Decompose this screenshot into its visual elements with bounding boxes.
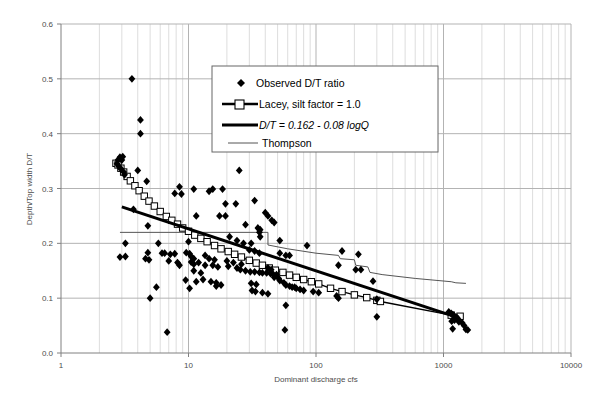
lacey-square-marker <box>231 251 237 257</box>
lacey-square-marker <box>280 269 286 275</box>
lacey-square-marker <box>300 276 306 282</box>
legend-label-observed: Observed D/T ratio <box>256 77 345 89</box>
lacey-square-marker <box>198 235 204 241</box>
lacey-square-marker <box>218 246 224 252</box>
y-tick-label: 0.1 <box>42 294 54 303</box>
lacey-square-marker <box>246 257 252 263</box>
open-square-marker-icon <box>235 100 244 109</box>
x-tick-label: 1 <box>59 361 64 370</box>
lacey-square-marker <box>351 292 357 298</box>
lacey-square-marker <box>157 208 163 214</box>
legend-label-lacey: Lacey, silt factor = 1.0 <box>259 98 361 110</box>
y-tick-label: 0.0 <box>42 349 54 358</box>
y-axis-tick-labels: 0.00.10.20.30.40.50.6 <box>42 20 54 358</box>
lacey-square-marker <box>204 238 210 244</box>
y-tick-label: 0.4 <box>42 130 54 139</box>
lacey-square-marker <box>253 260 259 266</box>
chart-container: 0.00.10.20.30.40.50.6 110100100010000 De… <box>0 0 605 397</box>
lacey-square-marker <box>316 281 322 287</box>
lacey-square-marker <box>286 272 292 278</box>
x-axis-title: Dominant discharge cfs <box>274 375 358 384</box>
y-axis-title: Depth/Top width D/T <box>25 153 34 226</box>
lacey-square-marker <box>259 262 265 268</box>
y-tick-label: 0.2 <box>42 239 54 248</box>
lacey-square-marker <box>364 294 370 300</box>
lacey-square-marker <box>339 288 345 294</box>
lacey-square-marker <box>308 279 314 285</box>
lacey-square-marker <box>211 242 217 248</box>
x-tick-label: 10 <box>184 361 193 370</box>
x-tick-label: 10000 <box>560 361 583 370</box>
x-tick-label: 100 <box>309 361 323 370</box>
chart-svg: 0.00.10.20.30.40.50.6 110100100010000 De… <box>0 0 605 397</box>
chart-legend: Observed D/T ratio Lacey, silt factor = … <box>212 66 438 152</box>
lacey-square-marker <box>293 274 299 280</box>
x-axis-tick-labels: 110100100010000 <box>59 361 583 370</box>
y-tick-label: 0.5 <box>42 75 54 84</box>
lacey-square-marker <box>225 248 231 254</box>
y-tick-label: 0.3 <box>42 185 54 194</box>
x-tick-label: 1000 <box>435 361 453 370</box>
legend-label-thompson: Thompson <box>262 137 312 149</box>
lacey-square-marker <box>238 254 244 260</box>
y-tick-label: 0.6 <box>42 20 54 29</box>
x-axis-ticks <box>61 353 571 357</box>
legend-label-regression: D/T = 0.162 - 0.08 logQ <box>259 119 369 131</box>
y-axis-ticks <box>57 24 61 353</box>
legend-entry-lacey[interactable]: Lacey, silt factor = 1.0 <box>222 98 361 110</box>
lacey-square-marker <box>327 285 333 291</box>
